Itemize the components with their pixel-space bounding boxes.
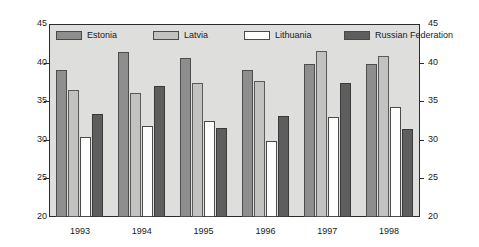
x-axis-label-1995: 1995	[174, 226, 234, 236]
y-tick-mark-right-35	[419, 101, 424, 102]
bar-russia-1995	[216, 128, 227, 217]
bar-lithuania-1998	[390, 107, 401, 217]
bar-lithuania-1997	[328, 117, 339, 217]
bar-russia-1994	[154, 86, 165, 217]
legend-swatch-estonia	[56, 31, 82, 40]
y-tick-label-right-40: 40	[428, 58, 438, 67]
legend-item-russia[interactable]: Russian Federation	[344, 31, 453, 40]
bar-lithuania-1996	[266, 141, 277, 217]
y-tick-mark-left-25	[44, 178, 49, 179]
bar-lithuania-1994	[142, 126, 153, 217]
bar-latvia-1996	[254, 81, 265, 217]
legend-label-estonia: Estonia	[87, 31, 117, 40]
legend-swatch-russia	[344, 31, 370, 40]
legend-item-estonia[interactable]: Estonia	[56, 31, 117, 40]
y-axis-left: 202530354045	[21, 0, 47, 247]
bar-estonia-1997	[304, 64, 315, 217]
y-tick-label-right-45: 45	[428, 19, 438, 28]
y-tick-mark-right-25	[419, 178, 424, 179]
bar-estonia-1994	[118, 52, 129, 217]
y-tick-mark-right-30	[419, 140, 424, 141]
x-axis-label-1996: 1996	[235, 226, 295, 236]
y-tick-mark-right-40	[419, 63, 424, 64]
y-tick-label-right-30: 30	[428, 135, 438, 144]
legend-label-latvia: Latvia	[184, 31, 208, 40]
bar-lithuania-1993	[80, 137, 91, 217]
bar-estonia-1996	[242, 70, 253, 217]
bar-russia-1996	[278, 116, 289, 217]
bar-latvia-1993	[68, 90, 79, 217]
bar-estonia-1998	[366, 64, 377, 217]
bar-lithuania-1995	[204, 121, 215, 218]
legend-item-latvia[interactable]: Latvia	[153, 31, 208, 40]
bar-russia-1998	[402, 129, 413, 217]
y-tick-label-right-25: 25	[428, 173, 438, 182]
x-axis-label-1994: 1994	[112, 226, 172, 236]
legend-label-russia: Russian Federation	[375, 31, 453, 40]
bar-russia-1997	[340, 83, 351, 217]
bar-latvia-1995	[192, 83, 203, 217]
bar-russia-1993	[92, 114, 103, 217]
y-tick-label-right-35: 35	[428, 96, 438, 105]
legend-label-lithuania: Lithuania	[275, 31, 312, 40]
legend-swatch-lithuania	[244, 31, 270, 40]
bar-latvia-1994	[130, 93, 141, 217]
x-axis-label-1997: 1997	[297, 226, 357, 236]
legend-item-lithuania[interactable]: Lithuania	[244, 31, 312, 40]
y-tick-mark-left-30	[44, 140, 49, 141]
y-tick-mark-left-35	[44, 101, 49, 102]
bar-latvia-1998	[378, 56, 389, 217]
bar-estonia-1993	[56, 70, 67, 217]
y-tick-label-left-20: 20	[37, 212, 47, 221]
legend-swatch-latvia	[153, 31, 179, 40]
x-axis-label-1998: 1998	[359, 226, 419, 236]
y-tick-label-right-20: 20	[428, 212, 438, 221]
y-tick-label-left-45: 45	[37, 19, 47, 28]
bar-chart: 202530354045 202530354045 19931994199519…	[0, 0, 479, 247]
bar-latvia-1997	[316, 51, 327, 217]
x-axis-label-1993: 1993	[50, 226, 110, 236]
y-tick-mark-left-40	[44, 63, 49, 64]
bar-estonia-1995	[180, 58, 191, 217]
